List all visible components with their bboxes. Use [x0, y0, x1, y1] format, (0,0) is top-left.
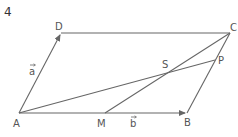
- segment-MC: [105, 33, 230, 113]
- vector-label-b: b: [130, 116, 137, 129]
- point-label-D: D: [55, 21, 63, 32]
- point-label-M: M: [97, 118, 106, 129]
- vector-b-label: b: [130, 118, 136, 129]
- point-label-P: P: [218, 55, 224, 66]
- point-label-B: B: [184, 117, 191, 128]
- point-label-C: C: [230, 22, 237, 33]
- point-label-A: A: [13, 118, 20, 129]
- vector-label-a: a: [29, 64, 36, 77]
- problem-number: 4: [4, 5, 12, 19]
- geometry-figure: 4 A B C D M S P a b: [0, 0, 238, 137]
- vector-a-AD: [19, 35, 60, 113]
- point-label-S: S: [162, 59, 168, 70]
- segment-CB: [187, 33, 230, 113]
- vector-a-label: a: [29, 66, 35, 77]
